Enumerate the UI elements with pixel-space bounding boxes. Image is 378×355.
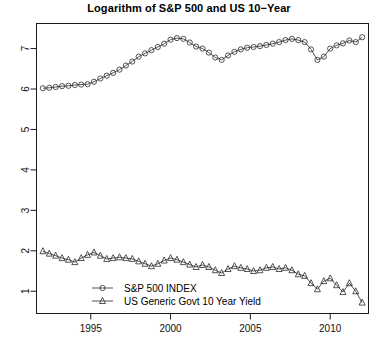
data-point-triangle (295, 271, 301, 277)
plot-frame (37, 24, 369, 314)
data-point-circle (360, 35, 365, 40)
y-tick-label: 6 (20, 86, 31, 92)
chart-figure: Logarithm of S&P 500 and US 10−Year 1995… (0, 0, 378, 355)
data-point-circle (308, 47, 313, 52)
x-tick-label: 2005 (239, 323, 262, 334)
data-point-triangle (155, 260, 161, 266)
data-point-triangle (117, 254, 123, 260)
data-point-circle (289, 36, 294, 41)
x-tick-label: 1995 (80, 323, 103, 334)
data-point-circle (123, 63, 128, 68)
data-point-circle (47, 85, 52, 90)
data-point-circle (136, 54, 141, 59)
y-tick-label: 1 (20, 288, 31, 294)
data-point-triangle (321, 278, 327, 284)
data-point-circle (111, 70, 116, 75)
data-series (40, 35, 365, 305)
legend-marker-circle (100, 285, 105, 290)
data-point-circle (302, 40, 307, 45)
y-tick-label: 4 (20, 167, 31, 173)
data-point-circle (104, 73, 109, 78)
data-point-circle (142, 51, 147, 56)
data-point-circle (85, 82, 90, 87)
plot-area: 19952000200520101234567 S&P 500 INDEXUS … (0, 0, 378, 355)
series-sp500 (40, 35, 364, 91)
data-point-triangle (219, 270, 225, 276)
legend-label: US Generic Govt 10 Year Yield (124, 296, 261, 307)
data-point-circle (245, 45, 250, 50)
data-point-triangle (270, 264, 276, 270)
data-point-circle (79, 82, 84, 87)
data-point-circle (206, 50, 211, 55)
data-point-circle (174, 35, 179, 40)
data-point-circle (277, 40, 282, 45)
data-point-circle (91, 79, 96, 84)
data-point-circle (225, 53, 230, 58)
data-point-circle (168, 37, 173, 42)
data-point-triangle (231, 263, 237, 269)
data-point-triangle (168, 255, 174, 261)
data-point-circle (187, 40, 192, 45)
y-tick-label: 5 (20, 126, 31, 132)
y-tick-label: 3 (20, 207, 31, 213)
data-point-circle (347, 38, 352, 43)
data-point-circle (238, 47, 243, 52)
data-point-circle (257, 44, 262, 49)
data-point-circle (194, 44, 199, 49)
data-point-triangle (212, 267, 218, 273)
legend-label: S&P 500 INDEX (124, 283, 197, 294)
data-point-circle (200, 46, 205, 51)
data-point-circle (149, 48, 154, 53)
data-point-circle (340, 41, 345, 46)
data-point-circle (59, 84, 64, 89)
data-point-circle (264, 42, 269, 47)
data-point-circle (66, 83, 71, 88)
data-point-circle (130, 59, 135, 64)
y-tick-label: 2 (20, 248, 31, 254)
data-point-circle (321, 54, 326, 59)
data-point-circle (213, 55, 218, 60)
data-point-circle (40, 86, 45, 91)
data-point-circle (232, 49, 237, 54)
data-point-triangle (200, 261, 206, 267)
data-point-circle (328, 46, 333, 51)
data-point-circle (155, 44, 160, 49)
data-point-triangle (40, 248, 46, 254)
x-tick-label: 2010 (319, 323, 342, 334)
data-point-circle (296, 37, 301, 42)
data-point-circle (98, 76, 103, 81)
series-polyline (43, 37, 362, 88)
data-point-triangle (283, 264, 289, 270)
data-point-circle (181, 36, 186, 41)
data-point-circle (251, 44, 256, 49)
data-point-circle (53, 84, 58, 89)
x-tick-label: 2000 (159, 323, 182, 334)
data-point-triangle (97, 252, 103, 258)
chart-legend: S&P 500 INDEXUS Generic Govt 10 Year Yie… (88, 278, 288, 307)
data-point-circle (72, 82, 77, 87)
data-point-circle (334, 43, 339, 48)
data-point-triangle (91, 249, 97, 255)
data-point-circle (219, 57, 224, 62)
data-point-circle (162, 41, 167, 46)
data-point-triangle (327, 275, 333, 281)
data-point-circle (270, 41, 275, 46)
data-point-circle (315, 57, 320, 62)
data-point-circle (117, 67, 122, 72)
data-point-circle (353, 40, 358, 45)
data-point-circle (283, 37, 288, 42)
y-tick-label: 7 (20, 45, 31, 51)
